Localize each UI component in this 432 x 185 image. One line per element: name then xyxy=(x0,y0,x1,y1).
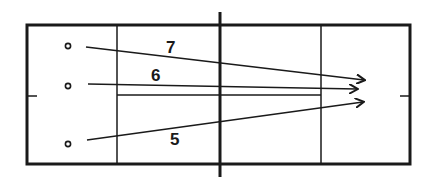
court-diagram: 7 6 5 xyxy=(0,0,432,185)
shot-label-6: 6 xyxy=(151,66,160,85)
shot-arrow-6 xyxy=(88,84,357,89)
player-marker-6 xyxy=(65,83,70,88)
shot-label-7: 7 xyxy=(166,38,175,57)
player-marker-7 xyxy=(65,43,70,48)
shot-arrow-7 xyxy=(86,47,364,80)
shot-label-5: 5 xyxy=(170,130,179,149)
player-marker-5 xyxy=(65,141,70,146)
